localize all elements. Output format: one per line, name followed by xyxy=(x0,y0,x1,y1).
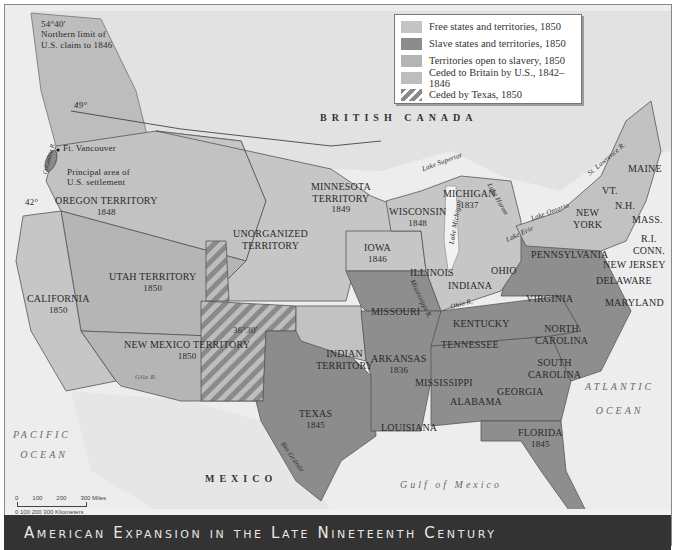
arkansas-year: 1836 xyxy=(371,365,427,375)
latitude-54-40-label: 54°40′ xyxy=(41,19,112,29)
illinois-label: ILLINOIS xyxy=(410,267,454,279)
virginia-label: VIRGINIA xyxy=(526,293,573,305)
scale-mile-300: 300 Miles xyxy=(80,495,106,501)
maine-label: MAINE xyxy=(628,163,662,175)
slave-states-swatch xyxy=(401,38,422,50)
new-york-label: NEWYORK xyxy=(573,207,602,230)
scale-mile-0: 0 xyxy=(15,495,18,501)
legend-label-slave: Slave states and territories, 1850 xyxy=(429,38,566,49)
scale-miles-ticks: 0 100 200 300 Miles xyxy=(15,495,106,501)
ohio-label: OHIO xyxy=(491,265,517,277)
massachusetts-label: MASS. xyxy=(632,214,663,226)
pennsylvania-label: PENNSYLVANIA xyxy=(531,249,608,261)
texas-name: TEXAS xyxy=(299,408,332,419)
florida-label: FLORIDA1845 xyxy=(518,427,563,449)
northern-limit-line1: Northern limit of xyxy=(41,29,112,39)
arkansas-name: ARKANSAS xyxy=(371,353,427,364)
ny-name2: YORK xyxy=(573,219,602,231)
texas-label: TEXAS1845 xyxy=(299,408,332,430)
iowa-year: 1846 xyxy=(364,254,391,264)
indian-name2: TERRITORY xyxy=(316,360,373,372)
legend-label-open: Territories open to slavery, 1850 xyxy=(429,55,565,66)
atlantic-line1: ATLANTIC xyxy=(585,381,654,393)
unorganized-name2: TERRITORY xyxy=(233,240,308,252)
oregon-territory-label: OREGON TERRITORY1848 xyxy=(55,195,158,217)
map-frame: 54°40′ Northern limit of U.S. claim to 1… xyxy=(4,4,672,546)
north-carolina-label: NORTHCAROLINA xyxy=(535,323,588,346)
ft-vancouver-label: Ft. Vancouver xyxy=(63,143,116,153)
georgia-label: GEORGIA xyxy=(497,386,543,398)
british-canada-label: BRITISH CANADA xyxy=(320,112,478,124)
legend-item-free: Free states and territories, 1850 xyxy=(401,18,581,35)
missouri-label: MISSOURI xyxy=(371,306,420,318)
pacific-ocean-label: PACIFIC OCEAN xyxy=(13,429,71,460)
parallel-42-label: 42° xyxy=(25,197,38,207)
legend-label-free: Free states and territories, 1850 xyxy=(429,21,561,32)
unorganized-territory-label: UNORGANIZEDTERRITORY xyxy=(233,228,308,251)
pacific-line2: OCEAN xyxy=(13,449,71,461)
sc-name2: CAROLINA xyxy=(528,369,581,381)
mississippi-label: MISSISSIPPI xyxy=(415,377,473,389)
new-jersey-label: NEW JERSEY xyxy=(603,259,666,271)
legend-label-texas: Ceded by Texas, 1850 xyxy=(429,89,522,100)
settlement-line1: Principal area of xyxy=(67,167,130,177)
nc-name: NORTH xyxy=(535,323,588,335)
ny-name: NEW xyxy=(573,207,602,219)
northern-limit-annotation: 54°40′ Northern limit of U.S. claim to 1… xyxy=(41,19,112,50)
unorganized-name: UNORGANIZED xyxy=(233,228,308,240)
map-title: American Expansion in the Late Nineteent… xyxy=(24,524,497,542)
wisconsin-label: WISCONSIN1848 xyxy=(389,206,446,228)
iowa-label: IOWA1846 xyxy=(364,242,391,264)
ceded-texas-hatch-swatch xyxy=(401,89,422,101)
new-mexico-territory-label: NEW MEXICO TERRITORY1850 xyxy=(124,339,250,361)
utah-territory-label: UTAH TERRITORY1850 xyxy=(109,271,196,293)
south-carolina-label: SOUTHCAROLINA xyxy=(528,357,581,380)
open-territories-swatch xyxy=(401,55,422,67)
california-label: CALIFORNIA1850 xyxy=(27,293,90,315)
iowa-name: IOWA xyxy=(364,242,391,253)
oregon-name: OREGON TERRITORY xyxy=(55,195,158,206)
rhode-island-label: R.I. xyxy=(641,233,657,245)
california-year: 1850 xyxy=(27,305,90,315)
settlement-label: Principal area of U.S. settlement xyxy=(67,167,130,188)
wisconsin-year: 1848 xyxy=(389,218,446,228)
settlement-line2: U.S. settlement xyxy=(67,177,130,187)
arkansas-label: ARKANSAS1836 xyxy=(371,353,427,375)
oregon-year: 1848 xyxy=(55,207,158,217)
new-mexico-name: NEW MEXICO TERRITORY xyxy=(124,339,250,350)
legend-item-texas: Ceded by Texas, 1850 xyxy=(401,86,581,103)
legend-item-slave: Slave states and territories, 1850 xyxy=(401,35,581,52)
indiana-label: INDIANA xyxy=(448,280,492,292)
maryland-label: MARYLAND xyxy=(605,297,664,309)
florida-year: 1845 xyxy=(518,439,563,449)
new-hampshire-label: N.H. xyxy=(615,200,635,212)
minnesota-territory-label: MINNESOTATERRITORY1849 xyxy=(311,181,371,214)
map-legend: Free states and territories, 1850 Slave … xyxy=(394,14,582,104)
utah-name: UTAH TERRITORY xyxy=(109,271,196,282)
utah-year: 1850 xyxy=(109,283,196,293)
louisiana-label: LOUISIANA xyxy=(381,422,437,434)
mexico-label: MEXICO xyxy=(205,473,277,485)
nc-name2: CAROLINA xyxy=(535,335,588,347)
florida-name: FLORIDA xyxy=(518,427,563,438)
parallel-36-label: 36°30′ xyxy=(233,325,258,335)
connecticut-label: CONN. xyxy=(633,245,665,257)
scale-mile-100: 100 xyxy=(32,495,42,501)
atlantic-line2: OCEAN xyxy=(585,405,654,417)
wisconsin-name: WISCONSIN xyxy=(389,206,446,217)
scale-line xyxy=(17,502,87,507)
indian-name: INDIAN xyxy=(316,348,373,360)
delaware-label: DELAWARE xyxy=(596,275,652,287)
gila-river-label: Gila R. xyxy=(135,373,157,381)
minnesota-name2: TERRITORY xyxy=(311,193,371,205)
northern-limit-line2: U.S. claim to 1846 xyxy=(41,40,112,50)
title-bar: American Expansion in the Late Nineteent… xyxy=(4,515,671,550)
michigan-year: 1837 xyxy=(443,200,496,210)
vermont-label: VT. xyxy=(602,185,618,197)
tennessee-label: TENNESSEE xyxy=(441,339,499,351)
gulf-of-mexico-label: Gulf of Mexico xyxy=(400,479,502,491)
sc-name: SOUTH xyxy=(528,357,581,369)
texas-year: 1845 xyxy=(299,420,332,430)
scale-bar: 0 100 200 300 Miles 0 100 200 300 Kilome… xyxy=(15,495,106,515)
california-name: CALIFORNIA xyxy=(27,293,90,304)
